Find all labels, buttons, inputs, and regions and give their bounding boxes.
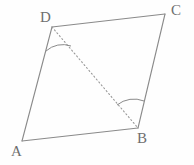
parallelogram-diagram-svg [0,0,194,165]
angle-arc-b [117,99,144,105]
edge-da [22,27,52,141]
diagonal-db-dashed [52,27,138,128]
edge-bc [138,14,165,128]
geometry-figure: A B C D [0,0,194,165]
vertex-label-b: B [137,131,147,146]
vertex-label-a: A [11,144,22,159]
vertex-label-d: D [40,10,51,25]
edge-ab [22,128,138,141]
edge-cd [52,14,165,27]
vertex-label-c: C [171,3,181,18]
